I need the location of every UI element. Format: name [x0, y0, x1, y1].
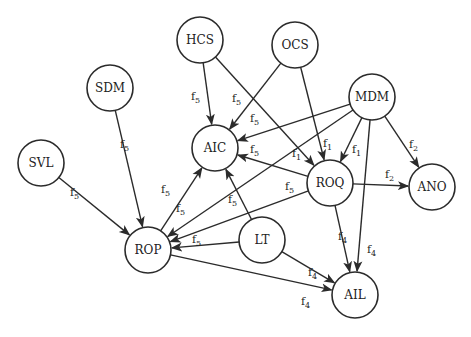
edge-label: f5: [191, 90, 200, 105]
edge-rop-to-aic: [161, 168, 202, 231]
edge-label: f5: [192, 233, 201, 248]
edge-label: f4: [308, 266, 317, 281]
edge-label: f5: [176, 202, 185, 217]
node-label: SDM: [95, 81, 125, 95]
node-roq: ROQ: [307, 160, 353, 206]
edge-label: f1: [323, 137, 332, 152]
nodes-layer: HCSOCSSDMMDMSVLAICROQANOROPLTAIL: [18, 17, 455, 318]
edge-sdm-to-rop: [115, 110, 142, 226]
node-aic: AIC: [192, 125, 238, 171]
node-label: SVL: [29, 156, 54, 170]
edge-mdm-to-ano: [385, 116, 419, 167]
node-label: MDM: [355, 90, 389, 104]
edge-label: f2: [385, 168, 394, 183]
directed-graph: HCSOCSSDMMDMSVLAICROQANOROPLTAIL f5f1f5f…: [0, 0, 471, 337]
edge-roq-to-ano: [353, 184, 408, 186]
edge-label: f1: [352, 143, 361, 158]
edge-label: f5: [161, 183, 170, 198]
node-label: AIL: [343, 288, 365, 302]
node-ocs: OCS: [272, 22, 318, 68]
edge-label: f5: [232, 92, 241, 107]
node-label: ROP: [135, 243, 162, 257]
node-label: OCS: [281, 38, 308, 52]
node-label: ROQ: [316, 176, 345, 190]
node-rop: ROP: [125, 227, 171, 273]
edge-label: f5: [285, 180, 294, 195]
node-hcs: HCS: [177, 17, 223, 63]
edge-label: f5: [70, 186, 79, 201]
edge-label: f4: [367, 243, 376, 258]
edge-label: f5: [228, 193, 237, 208]
node-lt: LT: [239, 217, 285, 263]
node-ail: AIL: [332, 272, 378, 318]
node-svl: SVL: [18, 140, 64, 186]
edge-label: f4: [338, 230, 347, 245]
node-label: AIC: [203, 141, 227, 155]
edge-label: f5: [120, 138, 129, 153]
edge-label: f5: [250, 143, 259, 158]
edge-hcs-to-aic: [203, 63, 212, 124]
node-sdm: SDM: [87, 65, 133, 111]
node-ano: ANO: [409, 164, 455, 210]
edge-label: f4: [301, 295, 310, 310]
edge-label: f2: [409, 138, 418, 153]
edge-label: f5: [250, 112, 259, 127]
edge-lt-to-rop: [172, 242, 239, 248]
node-label: LT: [255, 233, 270, 247]
node-label: ANO: [416, 180, 446, 194]
node-label: HCS: [186, 33, 214, 47]
node-mdm: MDM: [349, 74, 395, 120]
